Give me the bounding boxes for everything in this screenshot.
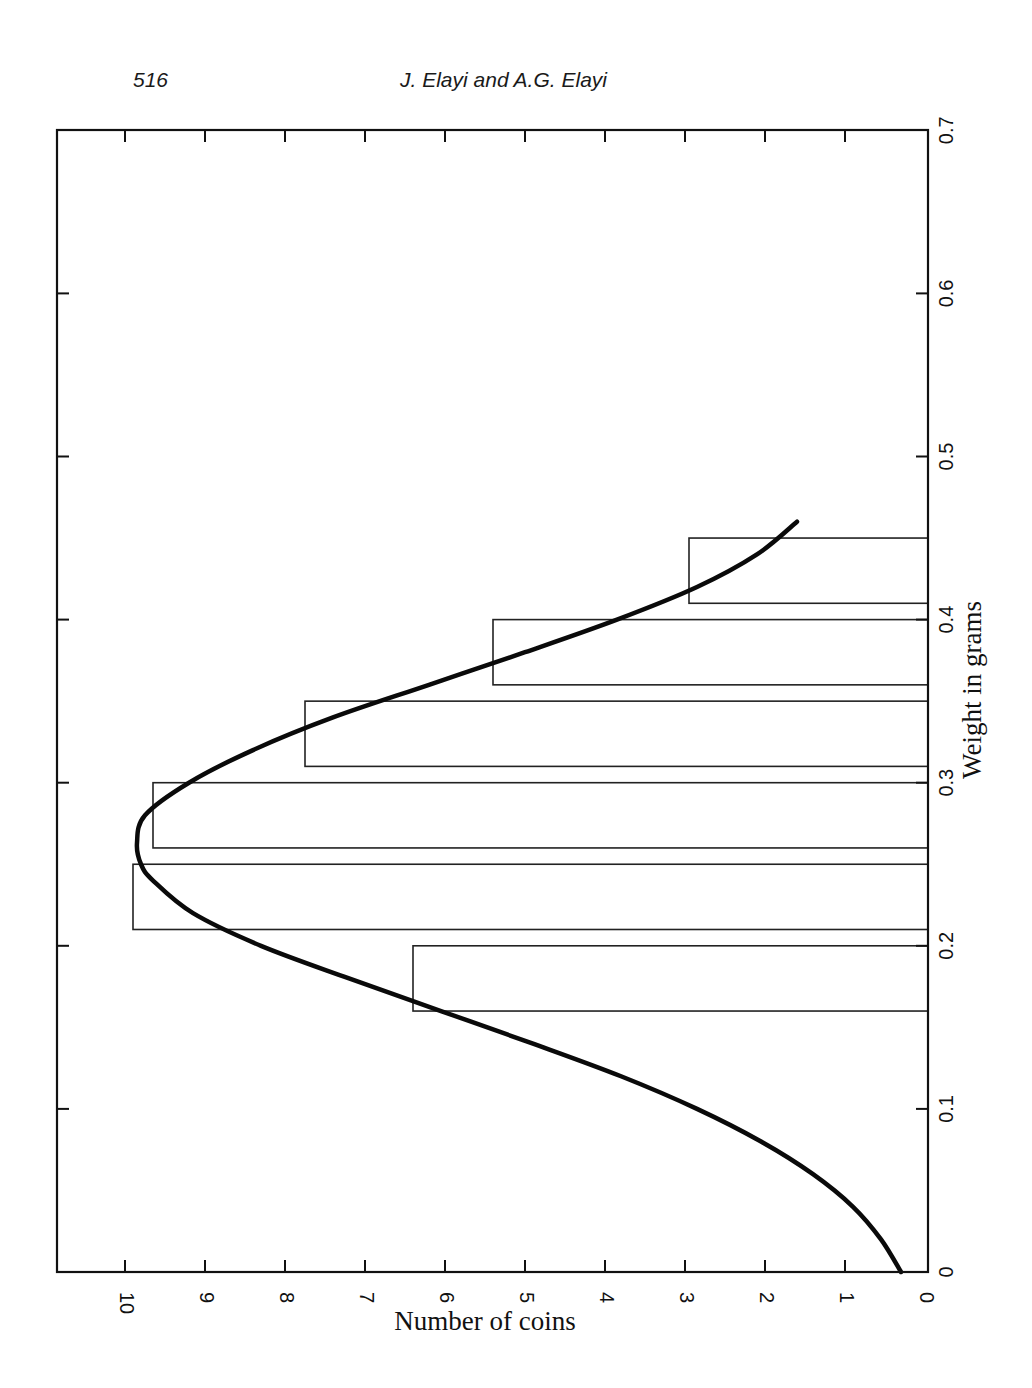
weight-tick-label: 0.1	[935, 1095, 957, 1123]
count-tick-label: 1	[836, 1292, 858, 1303]
histogram-bar	[133, 864, 928, 929]
histogram-bar	[493, 620, 928, 685]
weight-tick-label: 0.5	[935, 443, 957, 471]
weight-tick-label: 0.7	[935, 116, 957, 144]
count-tick-label: 10	[116, 1292, 138, 1314]
weight-tick-label: 0	[935, 1266, 957, 1277]
count-tick-label: 4	[596, 1292, 618, 1303]
count-tick-label: 5	[516, 1292, 538, 1303]
count-tick-label: 8	[276, 1292, 298, 1303]
count-tick-label: 7	[356, 1292, 378, 1303]
weight-axis-title: Weight in grams	[957, 601, 987, 779]
count-tick-label: 0	[916, 1292, 938, 1303]
count-axis-title: Number of coins	[394, 1306, 575, 1336]
histogram-bar	[305, 701, 928, 766]
histogram-bar	[413, 946, 928, 1011]
normal-fit-curve	[137, 522, 901, 1272]
count-tick-label: 9	[196, 1292, 218, 1303]
weight-tick-label: 0.2	[935, 932, 957, 960]
count-tick-label: 6	[436, 1292, 458, 1303]
axis-tick-labels: 01234567891000.10.20.30.40.50.60.7	[116, 116, 958, 1314]
weight-tick-label: 0.3	[935, 769, 957, 797]
count-tick-label: 3	[676, 1292, 698, 1303]
weight-tick-label: 0.4	[935, 606, 957, 634]
weight-tick-label: 0.6	[935, 279, 957, 307]
histogram-bar	[153, 783, 928, 848]
histogram-chart: 01234567891000.10.20.30.40.50.60.7 Weigh…	[0, 0, 1032, 1388]
count-tick-label: 2	[756, 1292, 778, 1303]
